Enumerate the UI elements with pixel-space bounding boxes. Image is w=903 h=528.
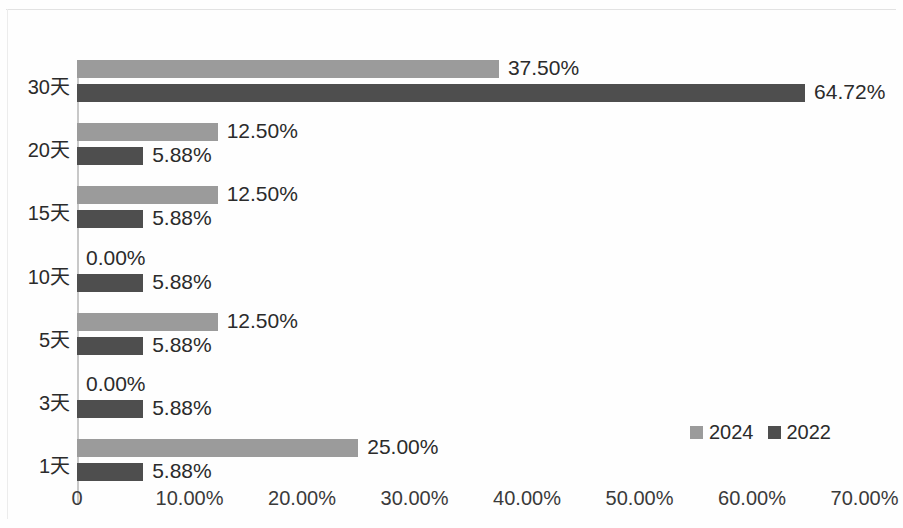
legend-label: 2022	[787, 421, 832, 444]
y-axis-category-label: 20天	[4, 134, 70, 163]
bar-group: 25.00%5.88%	[77, 439, 889, 483]
bar-2022-15天	[77, 210, 143, 228]
x-axis-tick-label: 0	[71, 487, 82, 510]
bar-group: 0.00%5.88%	[77, 376, 889, 420]
bar-2024-30天	[77, 60, 499, 78]
x-axis-tick-labels: 010.00%20.00%30.00%40.00%50.00%60.00%70.…	[0, 487, 903, 521]
x-axis-tick-label: 40.00%	[493, 487, 561, 510]
bar-2022-5天	[77, 337, 143, 355]
bar-2024-20天	[77, 123, 218, 141]
y-axis-category-label: 1天	[4, 450, 70, 479]
legend-item-2022: 2022	[768, 421, 832, 444]
y-axis-category-label: 3天	[4, 387, 70, 416]
legend-label: 2024	[709, 421, 754, 444]
legend-item-2024: 2024	[690, 421, 754, 444]
x-axis-tick-label: 60.00%	[718, 487, 786, 510]
bar-2024-1天	[77, 439, 358, 457]
x-axis-tick-label: 30.00%	[381, 487, 449, 510]
chart-legend: 20242022	[690, 421, 831, 444]
bar-2022-3天	[77, 400, 143, 418]
x-axis-tick-label: 20.00%	[268, 487, 336, 510]
bar-value-label: 12.50%	[227, 312, 298, 330]
bar-value-label: 12.50%	[227, 185, 298, 203]
bar-value-label: 25.00%	[367, 438, 438, 456]
bar-value-label: 5.88%	[152, 146, 212, 164]
y-axis-category-label: 30天	[4, 71, 70, 100]
y-axis-category-labels: 30天20天15天10天5天3天1天	[0, 30, 70, 480]
bar-value-label: 0.00%	[86, 375, 146, 393]
bar-2024-15天	[77, 186, 218, 204]
bar-value-label: 37.50%	[508, 59, 579, 77]
y-axis-category-label: 15天	[4, 197, 70, 226]
bar-group: 0.00%5.88%	[77, 250, 889, 294]
bar-2024-5天	[77, 313, 218, 331]
bar-value-label: 5.88%	[152, 399, 212, 417]
x-axis-tick-label: 50.00%	[606, 487, 674, 510]
bar-value-label: 5.88%	[152, 209, 212, 227]
bar-value-label: 12.50%	[227, 122, 298, 140]
legend-swatch-icon	[768, 426, 781, 439]
page-border-top	[6, 9, 896, 10]
bar-2022-20天	[77, 147, 143, 165]
x-axis-tick-label: 10.00%	[156, 487, 224, 510]
bar-value-label: 5.88%	[152, 273, 212, 291]
bar-2022-1天	[77, 463, 143, 481]
bar-chart: 30天20天15天10天5天3天1天 37.50%64.72%12.50%5.8…	[0, 0, 903, 528]
bar-value-label: 5.88%	[152, 336, 212, 354]
x-axis-tick-label: 70.00%	[831, 487, 899, 510]
bar-value-label: 5.88%	[152, 462, 212, 480]
y-axis-category-label: 5天	[4, 324, 70, 353]
y-axis-category-label: 10天	[4, 261, 70, 290]
bar-value-label: 0.00%	[86, 249, 146, 267]
bar-2022-10天	[77, 274, 143, 292]
plot-area: 37.50%64.72%12.50%5.88%12.50%5.88%0.00%5…	[77, 30, 889, 480]
bar-value-label: 64.72%	[814, 83, 885, 101]
bar-group: 12.50%5.88%	[77, 186, 889, 230]
bar-2022-30天	[77, 84, 805, 102]
bar-group: 12.50%5.88%	[77, 313, 889, 357]
bar-group: 37.50%64.72%	[77, 60, 889, 104]
legend-swatch-icon	[690, 426, 703, 439]
bar-group: 12.50%5.88%	[77, 123, 889, 167]
